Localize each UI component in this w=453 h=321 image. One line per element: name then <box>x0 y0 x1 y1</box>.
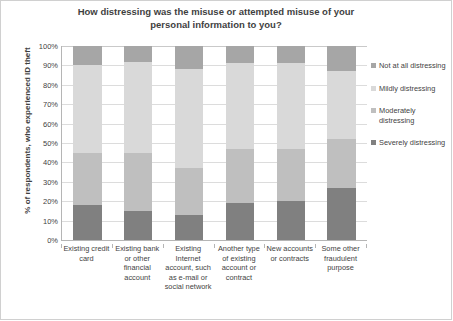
bar-segment[interactable] <box>175 46 203 69</box>
legend-item[interactable]: Severely distressing <box>371 138 451 148</box>
bar-slot <box>62 46 113 240</box>
x-axis-tick <box>315 244 316 248</box>
bar-segment[interactable] <box>226 46 254 63</box>
y-axis-tick-label: 80% <box>24 80 58 89</box>
bar-segment[interactable] <box>124 153 152 211</box>
chart-title: How distressing was the misuse or attemp… <box>61 5 371 31</box>
bar-segment[interactable] <box>73 205 101 240</box>
legend-label: Severely distressing <box>379 138 445 148</box>
y-axis-tick-label: 100% <box>24 42 58 51</box>
legend-swatch-icon <box>371 140 376 145</box>
legend-swatch-icon <box>371 86 376 91</box>
stacked-bar[interactable] <box>175 46 203 240</box>
legend-label: Not at all distressing <box>379 61 446 71</box>
y-axis-tick-label: 40% <box>24 158 58 167</box>
x-axis-tick-label: Another type of existing account or cont… <box>213 244 264 292</box>
bar-slot <box>164 46 215 240</box>
stacked-bar[interactable] <box>277 46 305 240</box>
bar-segment[interactable] <box>327 71 355 139</box>
y-axis-tick-label: 50% <box>24 139 58 148</box>
x-axis-tick-label: Existing Internet account, such as e-mai… <box>163 244 214 292</box>
y-axis-tick-label: 30% <box>24 177 58 186</box>
x-axis-tick-label: New accounts or contracts <box>264 244 315 292</box>
x-axis-tick <box>112 244 113 248</box>
bar-segment[interactable] <box>175 168 203 215</box>
bar-segment[interactable] <box>73 153 101 205</box>
legend-label: Moderately distressing <box>379 106 451 125</box>
bar-segment[interactable] <box>124 46 152 62</box>
bar-segment[interactable] <box>277 46 305 63</box>
bar-segment[interactable] <box>277 63 305 148</box>
bar-segment[interactable] <box>124 211 152 240</box>
bar-segment[interactable] <box>73 65 101 152</box>
x-axis-tick <box>214 244 215 248</box>
x-axis-tick <box>61 244 62 248</box>
bar-segment[interactable] <box>175 69 203 168</box>
bar-segment[interactable] <box>226 63 254 148</box>
y-axis-tick-labels: 100%90%80%70%60%50%40%30%20%10%0% <box>23 41 58 241</box>
x-axis-tick-labels: Existing credit cardExisting bank or oth… <box>61 244 366 292</box>
legend-label: Mildly distressing <box>379 84 435 94</box>
bar-slot <box>113 46 164 240</box>
bar-segment[interactable] <box>327 188 355 240</box>
chart-legend: Not at all distressingMildly distressing… <box>371 61 451 161</box>
stacked-bar[interactable] <box>327 46 355 240</box>
y-axis-tick-label: 0% <box>24 236 58 245</box>
x-axis-tick-label: Existing bank or other financial account <box>112 244 163 292</box>
y-axis-tick-label: 70% <box>24 100 58 109</box>
chart-frame: How distressing was the misuse or attemp… <box>0 0 452 320</box>
bar-slot <box>214 46 265 240</box>
bar-slot <box>316 46 367 240</box>
bar-slot <box>265 46 316 240</box>
x-axis-tick-label: Existing credit card <box>61 244 112 292</box>
bar-segment[interactable] <box>327 139 355 188</box>
bar-segment[interactable] <box>327 46 355 71</box>
legend-item[interactable]: Mildly distressing <box>371 84 451 94</box>
bar-segment[interactable] <box>226 149 254 203</box>
x-axis-tick <box>366 244 367 248</box>
stacked-bar[interactable] <box>226 46 254 240</box>
bar-segment[interactable] <box>175 215 203 240</box>
x-axis-tick <box>264 244 265 248</box>
legend-swatch-icon <box>371 63 376 68</box>
bar-segment[interactable] <box>73 46 101 65</box>
y-axis-tick-label: 20% <box>24 197 58 206</box>
y-axis-tick-label: 60% <box>24 119 58 128</box>
legend-item[interactable]: Moderately distressing <box>371 106 451 125</box>
legend-item[interactable]: Not at all distressing <box>371 61 451 71</box>
legend-swatch-icon <box>371 108 376 113</box>
bar-segment[interactable] <box>226 203 254 240</box>
stacked-bar[interactable] <box>73 46 101 240</box>
bar-series-group <box>62 46 367 240</box>
bar-segment[interactable] <box>124 62 152 153</box>
plot-area <box>61 46 367 241</box>
y-axis-tick-label: 10% <box>24 216 58 225</box>
y-axis-tick-label: 90% <box>24 61 58 70</box>
bar-segment[interactable] <box>277 149 305 201</box>
x-axis-tick <box>163 244 164 248</box>
stacked-bar[interactable] <box>124 46 152 240</box>
bar-segment[interactable] <box>277 201 305 240</box>
x-axis-tick-label: Some other fraudulent purpose <box>315 244 366 292</box>
